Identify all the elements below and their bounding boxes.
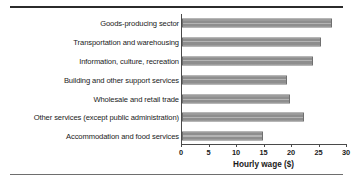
x-axis-tick <box>264 144 265 147</box>
chart-row: Goods-producing sector <box>0 14 353 32</box>
category-label: Other services (except public administra… <box>34 113 179 122</box>
x-axis-tick-label: 30 <box>342 148 350 157</box>
bar <box>182 37 321 46</box>
x-axis-tick <box>181 144 182 147</box>
x-axis-tick-label: 20 <box>287 148 295 157</box>
bar <box>182 132 263 141</box>
x-axis-tick-label: 25 <box>314 148 322 157</box>
bar <box>182 56 313 65</box>
category-label: Wholesale and retail trade <box>93 94 179 103</box>
bar <box>182 75 287 84</box>
chart-row: Transportation and warehousing <box>0 33 353 51</box>
plot-area: Goods-producing sectorTransportation and… <box>0 14 353 146</box>
bar <box>182 19 332 28</box>
chart-row: Other services (except public administra… <box>0 108 353 126</box>
chart-figure: Goods-producing sectorTransportation and… <box>0 0 353 182</box>
chart-row: Accommodation and food services <box>0 127 353 145</box>
category-label: Accommodation and food services <box>66 132 179 141</box>
x-axis-title: Hourly wage ($) <box>181 160 346 169</box>
bar <box>182 113 304 122</box>
bottom-divider-rule <box>10 174 343 175</box>
chart-row: Wholesale and retail trade <box>0 89 353 107</box>
category-label: Information, culture, recreation <box>79 56 179 65</box>
x-axis-tick-label: 5 <box>206 148 210 157</box>
category-label: Transportation and warehousing <box>73 37 179 46</box>
chart-row: Information, culture, recreation <box>0 52 353 70</box>
x-axis-tick-label: 0 <box>179 148 183 157</box>
x-axis-tick <box>346 144 347 147</box>
category-label: Goods-producing sector <box>100 19 179 28</box>
x-axis-tick <box>291 144 292 147</box>
x-axis-tick <box>319 144 320 147</box>
chart-row: Building and other support services <box>0 71 353 89</box>
category-label: Building and other support services <box>64 75 179 84</box>
top-divider-rule <box>10 6 343 8</box>
x-axis-tick <box>236 144 237 147</box>
x-axis-tick <box>209 144 210 147</box>
x-axis-tick-label: 10 <box>232 148 240 157</box>
category-axis-line <box>181 14 182 144</box>
bar <box>182 94 290 103</box>
x-axis-tick-label: 15 <box>259 148 267 157</box>
